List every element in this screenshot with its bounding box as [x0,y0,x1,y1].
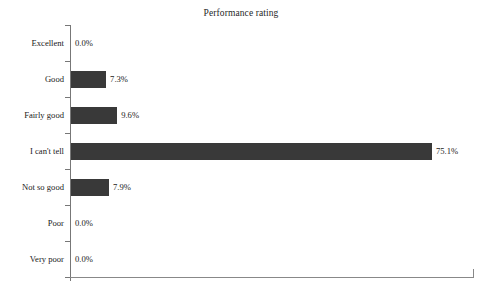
bar [71,143,432,160]
bar-value-label: 9.6% [121,107,139,124]
bar-chart: Performance rating Excellent0.0%Good7.3%… [0,0,482,292]
chart-title: Performance rating [0,8,482,18]
x-axis-line [70,277,474,278]
bar-row: Excellent0.0% [0,25,482,61]
bar-row: Good7.3% [0,61,482,97]
category-label: Excellent [0,25,64,61]
bar [71,107,117,124]
bar-value-label: 7.9% [113,179,131,196]
bar-value-label: 7.3% [110,71,128,88]
bar-value-label: 0.0% [75,251,93,268]
y-axis-tick [65,277,70,278]
category-label: Good [0,61,64,97]
category-label: Not so good [0,169,64,205]
bar-row: Poor0.0% [0,205,482,241]
bar-row: Not so good7.9% [0,169,482,205]
bar-row: Very poor0.0% [0,241,482,277]
category-label: Very poor [0,241,64,277]
category-label: Poor [0,205,64,241]
bar [71,71,106,88]
category-label: I can't tell [0,133,64,169]
category-label: Fairly good [0,97,64,133]
bar [71,179,109,196]
bar-row: Fairly good9.6% [0,97,482,133]
bar-value-label: 0.0% [75,35,93,52]
bar-value-label: 0.0% [75,215,93,232]
bar-row: I can't tell75.1% [0,133,482,169]
bar-value-label: 75.1% [436,143,458,160]
